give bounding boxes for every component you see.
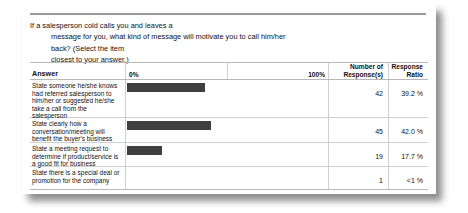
bar-track — [127, 83, 327, 92]
question-block: If a salesperson cold calls you and leav… — [30, 20, 428, 66]
row-count-cell: 42 — [329, 80, 389, 117]
card-inner: If a salesperson cold calls you and leav… — [22, 4, 436, 194]
row-chart-cell — [126, 143, 329, 166]
top-divider-rule — [30, 13, 426, 15]
scale-max-label: 100% — [308, 71, 325, 78]
response-count: 19 — [375, 153, 383, 160]
row-answer-cell: State someone he/she knows had referred … — [30, 80, 126, 117]
bar — [127, 83, 205, 92]
screenshot-root: If a salesperson cold calls you and leav… — [0, 0, 468, 213]
header-responses-line1: Number of — [350, 63, 383, 70]
question-line-2: message for you, what kind of message wi… — [30, 31, 428, 42]
row-answer-cell: State a meeting request to determine if … — [30, 143, 126, 166]
results-table: Answer 0% 100% Number ofResponse(s) Resp… — [30, 62, 428, 190]
table-row: State clearly how a conversation/meeting… — [30, 118, 428, 143]
row-ratio-cell: <1 % — [389, 167, 428, 189]
row-answer-cell: State clearly how a conversation/meeting… — [30, 118, 126, 142]
table-row: State there is a special deal or promoti… — [30, 167, 428, 190]
row-count-cell: 19 — [329, 143, 389, 166]
scale-min-label: 0% — [129, 71, 139, 78]
answer-label: State someone he/she knows had referred … — [32, 82, 122, 120]
header-ratio-line2: Ratio — [407, 71, 423, 78]
scale-midline — [227, 63, 228, 79]
row-count-cell: 45 — [329, 118, 389, 142]
question-line-3: back? (Select the item — [30, 43, 428, 54]
response-count: 42 — [375, 90, 383, 97]
row-count-cell: 1 — [329, 167, 389, 189]
row-answer-cell: State there is a special deal or promoti… — [30, 167, 126, 189]
response-ratio: <1 % — [407, 177, 423, 184]
header-cell-ratio: ResponseRatio — [389, 63, 428, 79]
header-cell-scale: 0% 100% — [126, 63, 329, 79]
header-ratio-label: ResponseRatio — [391, 63, 423, 78]
header-ratio-line1: Response — [391, 63, 423, 70]
row-ratio-cell: 17.7 % — [389, 143, 428, 166]
bar — [127, 121, 211, 130]
header-cell-responses: Number ofResponse(s) — [329, 63, 389, 79]
table-row: State a meeting request to determine if … — [30, 143, 428, 167]
response-ratio: 17.7 % — [401, 153, 423, 160]
response-ratio: 42.0 % — [401, 128, 423, 135]
row-chart-cell — [126, 80, 329, 117]
table-row: State someone he/she knows had referred … — [30, 80, 428, 118]
response-count: 45 — [375, 128, 383, 135]
response-ratio: 39.2 % — [401, 90, 423, 97]
response-count: 1 — [379, 177, 383, 184]
header-answer-label: Answer — [32, 70, 58, 78]
header-responses-line2: Response(s) — [343, 71, 383, 78]
header-cell-answer: Answer — [30, 63, 126, 79]
answer-label: State a meeting request to determine if … — [32, 145, 122, 168]
bar-track — [127, 170, 327, 179]
bar-track — [127, 146, 327, 155]
row-ratio-cell: 42.0 % — [389, 118, 428, 142]
row-chart-cell — [126, 118, 329, 142]
row-ratio-cell: 39.2 % — [389, 80, 428, 117]
table-header-row: Answer 0% 100% Number ofResponse(s) Resp… — [30, 63, 428, 80]
answer-label: State there is a special deal or promoti… — [32, 169, 122, 184]
header-responses-label: Number ofResponse(s) — [343, 63, 383, 78]
question-line-1: If a salesperson cold calls you and leav… — [30, 20, 428, 31]
bar-track — [127, 121, 327, 130]
survey-result-card: If a salesperson cold calls you and leav… — [22, 4, 436, 194]
row-chart-cell — [126, 167, 329, 189]
answer-label: State clearly how a conversation/meeting… — [32, 120, 122, 143]
bar — [127, 146, 162, 155]
